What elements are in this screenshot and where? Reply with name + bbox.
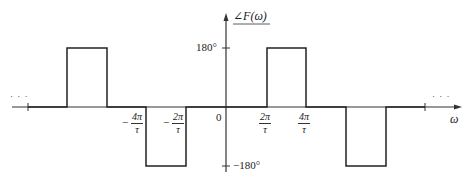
ellipsis-left: · · · — [10, 92, 29, 101]
x-tick-label-neg2pi: − 2π τ — [172, 112, 184, 135]
phase-plot — [0, 0, 470, 183]
x-tick-label-2pi: 2π τ — [259, 112, 271, 135]
x-tick-label-4pi: 4π τ — [298, 112, 310, 135]
x-tick-label-neg4pi: − 4π τ — [131, 112, 143, 135]
origin-label: 0 — [216, 112, 222, 123]
ellipsis-right: · · · — [432, 92, 451, 101]
y-axis-label: ∠F(ω) — [233, 10, 267, 22]
y-tick-label-neg180: −180° — [233, 160, 260, 171]
x-axis-arrow-icon — [454, 105, 462, 110]
y-axis-arrow-icon — [224, 13, 229, 21]
y-tick-label-180: 180° — [196, 42, 217, 53]
x-axis-label: ω — [450, 113, 458, 125]
